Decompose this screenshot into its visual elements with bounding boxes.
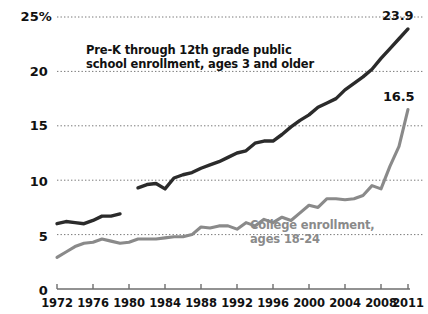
y-tick-label-10: 10	[8, 175, 48, 188]
y-tick-label-25: 25%	[8, 10, 52, 23]
series-annotation-prek12-line1: Pre-K through 12th grade public	[86, 44, 314, 58]
series-annotation-college-line2: ages 18-24	[250, 233, 375, 247]
series-line-0-segment-0	[57, 214, 120, 224]
series-annotation-college-line1: College enrollment,	[250, 219, 375, 233]
end-value-label-prek12: 23.9	[382, 9, 413, 22]
x-tick-label-2011: 2011	[384, 298, 428, 310]
y-tick-label-5: 5	[8, 230, 48, 243]
end-value-label-college: 16.5	[383, 90, 414, 103]
y-tick-label-15: 15	[8, 119, 48, 132]
series-annotation-prek12: Pre-K through 12th grade public school e…	[86, 44, 314, 71]
series-annotation-prek12-line2: school enrollment, ages 3 and older	[86, 58, 314, 72]
y-tick-label-20: 20	[8, 65, 48, 78]
enrollment-line-chart: 25% 20 15 10 5 0 1972 1976 1980 1984 198…	[0, 0, 428, 314]
series-annotation-college: College enrollment, ages 18-24	[250, 219, 375, 246]
